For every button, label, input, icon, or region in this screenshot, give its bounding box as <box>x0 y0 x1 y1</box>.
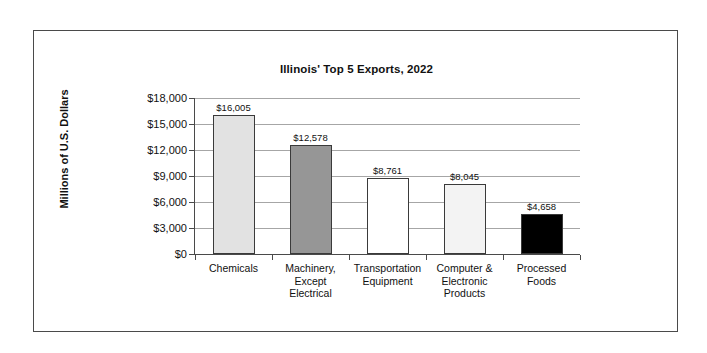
x-axis-label-transportation-equipment: Transportation Equipment <box>349 262 426 287</box>
bar-value-computer-electronic-products: $8,045 <box>450 171 479 182</box>
x-axis-label-machinery-except-electrical: Machinery, Except Electrical <box>272 262 349 300</box>
x-axis-label-computer-line-3: Products <box>426 287 503 300</box>
bar-computer-electronic-products[interactable] <box>444 184 486 254</box>
bar-chemicals[interactable] <box>213 115 255 254</box>
x-axis-label-chemicals-line-1: Chemicals <box>195 262 272 275</box>
y-axis-tick-0 <box>189 254 194 255</box>
x-axis-label-processed-line-2: Foods <box>503 275 580 288</box>
y-axis-title: Millions of U.S. Dollars <box>58 69 70 229</box>
x-axis-label-machinery-line-2: Except <box>272 275 349 288</box>
y-tick-label-15000: $15,000 <box>107 118 187 130</box>
bar-value-processed-foods: $4,658 <box>527 201 556 212</box>
bar-value-machinery-except-electrical: $12,578 <box>293 132 327 143</box>
bar-group-processed-foods: $4,658 <box>503 98 580 255</box>
bar-group-machinery-except-electrical: $12,578 <box>272 98 349 255</box>
x-axis-category-labels: Chemicals Machinery, Except Electrical T… <box>195 262 580 324</box>
bar-value-transportation-equipment: $8,761 <box>373 165 402 176</box>
x-axis-label-computer-line-1: Computer & <box>426 262 503 275</box>
y-axis-tick-9000 <box>189 176 194 177</box>
x-axis-tick-5 <box>580 255 581 260</box>
y-tick-label-18000: $18,000 <box>107 92 187 104</box>
bar-transportation-equipment[interactable] <box>367 178 409 254</box>
chart-figure-frame: Illinois' Top 5 Exports, 2022 Millions o… <box>33 30 678 332</box>
y-tick-label-6000: $6,000 <box>107 196 187 208</box>
x-axis-label-computer-line-2: Electronic <box>426 275 503 288</box>
y-axis-tick-18000 <box>189 98 194 99</box>
x-axis-tick-3 <box>426 255 427 260</box>
y-axis-tick-15000 <box>189 124 194 125</box>
x-axis-tick-0 <box>195 255 196 260</box>
x-axis-label-chemicals: Chemicals <box>195 262 272 275</box>
bar-group-computer-electronic-products: $8,045 <box>426 98 503 255</box>
x-axis-label-processed-foods: Processed Foods <box>503 262 580 287</box>
bar-machinery-except-electrical[interactable] <box>290 145 332 254</box>
x-axis-label-transportation-line-2: Equipment <box>349 275 426 288</box>
y-tick-label-0: $0 <box>107 248 187 260</box>
y-axis-tick-12000 <box>189 150 194 151</box>
x-axis-label-processed-line-1: Processed <box>503 262 580 275</box>
x-axis-label-machinery-line-1: Machinery, <box>272 262 349 275</box>
y-axis-tick-labels: $18,000 $15,000 $12,000 $9,000 $6,000 $3… <box>102 31 187 333</box>
bar-value-chemicals: $16,005 <box>216 102 250 113</box>
y-tick-label-9000: $9,000 <box>107 170 187 182</box>
y-axis-tick-3000 <box>189 228 194 229</box>
x-axis-label-computer-electronic-products: Computer & Electronic Products <box>426 262 503 300</box>
x-axis-label-transportation-line-1: Transportation <box>349 262 426 275</box>
bar-group-chemicals: $16,005 <box>195 98 272 255</box>
chart-page: Illinois' Top 5 Exports, 2022 Millions o… <box>0 0 707 353</box>
bars-layer: $16,005 $12,578 $8,761 $8,045 $4,658 <box>195 98 580 255</box>
x-axis-tick-2 <box>349 255 350 260</box>
y-axis-tick-6000 <box>189 202 194 203</box>
x-axis-label-machinery-line-3: Electrical <box>272 287 349 300</box>
bar-processed-foods[interactable] <box>521 214 563 254</box>
x-axis-tick-4 <box>503 255 504 260</box>
bar-group-transportation-equipment: $8,761 <box>349 98 426 255</box>
x-axis-tick-1 <box>272 255 273 260</box>
y-tick-label-12000: $12,000 <box>107 144 187 156</box>
y-tick-label-3000: $3,000 <box>107 222 187 234</box>
